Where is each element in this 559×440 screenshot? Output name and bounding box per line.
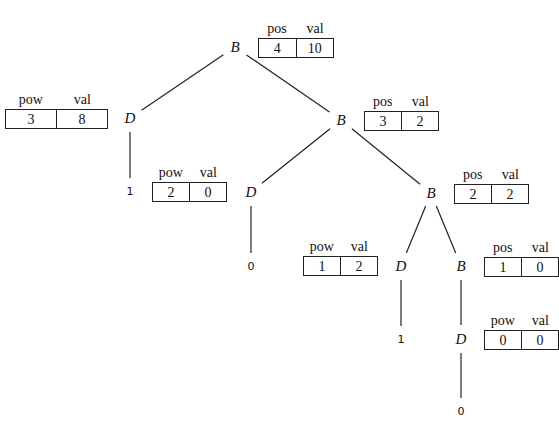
record-cell: 2 — [455, 185, 491, 203]
record-header: pow — [303, 239, 341, 255]
record-header: pos — [364, 94, 402, 110]
record-cell: 8 — [56, 110, 107, 128]
leaf-value: 1 — [127, 185, 134, 198]
node-d-4: D — [456, 331, 467, 348]
record-header: val — [190, 165, 228, 181]
record-b3: posval 22 — [454, 184, 529, 204]
leaf-value: 1 — [398, 333, 405, 346]
record-cell: 4 — [259, 39, 296, 57]
record-header: val — [492, 167, 530, 183]
node-b-4: B — [456, 258, 465, 275]
record-d2: powval 20 — [152, 182, 227, 202]
record-header: pow — [5, 92, 57, 108]
tree-edge — [436, 206, 455, 253]
leaf-value: 0 — [458, 405, 465, 418]
record-cell: 2 — [153, 183, 189, 201]
node-b-root: B — [230, 39, 239, 56]
record-b2: posval 32 — [364, 111, 439, 131]
tree-edge — [142, 55, 224, 110]
tree-edge — [247, 55, 330, 112]
record-header: pos — [454, 167, 492, 183]
node-d-1: D — [125, 110, 136, 127]
record-header: val — [522, 240, 559, 256]
record-cell: 0 — [485, 331, 521, 349]
record-cell: 0 — [521, 331, 558, 349]
record-header: pos — [258, 21, 296, 37]
record-cell: 2 — [401, 112, 438, 130]
record-cell: 3 — [365, 112, 401, 130]
record-header: val — [341, 239, 379, 255]
record-cell: 0 — [521, 258, 558, 276]
record-header: pow — [152, 165, 190, 181]
record-b4: posval 10 — [484, 257, 559, 277]
node-b-3: B — [426, 185, 435, 202]
record-cell: 1 — [304, 257, 340, 275]
record-cell: 10 — [296, 39, 334, 57]
record-d3: powval 12 — [303, 256, 378, 276]
tree-edge — [406, 206, 425, 253]
record-cell: 0 — [189, 183, 226, 201]
tree-edge — [352, 129, 420, 184]
record-cell: 2 — [340, 257, 377, 275]
leaf-value: 0 — [248, 260, 255, 273]
record-cell: 1 — [485, 258, 521, 276]
node-b-2: B — [336, 112, 345, 129]
record-header: val — [522, 313, 559, 329]
record-header: val — [402, 94, 440, 110]
node-d-3: D — [396, 258, 407, 275]
node-d-2: D — [246, 184, 257, 201]
tree-edge — [262, 129, 330, 184]
record-root: posval 410 — [258, 38, 334, 58]
record-d4: powval 00 — [484, 330, 559, 350]
record-header: val — [296, 21, 334, 37]
record-cell: 3 — [6, 110, 56, 128]
record-d1: powval 38 — [5, 109, 108, 129]
record-header: pow — [484, 313, 522, 329]
record-header: pos — [484, 240, 522, 256]
record-cell: 2 — [491, 185, 528, 203]
record-header: val — [57, 92, 109, 108]
